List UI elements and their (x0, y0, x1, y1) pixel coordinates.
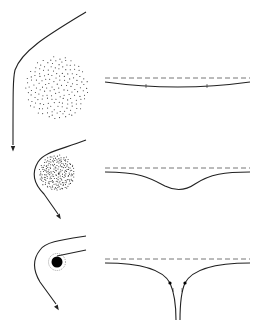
cloud-dot (60, 184, 61, 185)
cloud-dot (71, 179, 72, 180)
cloud-dot (56, 165, 57, 166)
cloud-dot (65, 170, 66, 171)
cloud-dot (60, 165, 61, 166)
cloud-dot (45, 170, 46, 171)
cloud-dot (72, 83, 73, 84)
cloud-dot (67, 73, 68, 74)
cloud-dot (63, 157, 64, 158)
cloud-dot (64, 95, 65, 96)
cloud-dot (66, 182, 67, 183)
cloud-dot (60, 111, 61, 112)
cloud-dot (49, 183, 50, 184)
cloud-dot (41, 176, 42, 177)
cloud-dot (63, 158, 64, 159)
cloud-dot (62, 182, 63, 183)
cloud-dot (31, 80, 32, 81)
cloud-dot (57, 187, 58, 188)
cloud-dot (87, 92, 88, 93)
cloud-dot (54, 109, 55, 110)
cloud-dot (76, 103, 77, 104)
cloud-dot (72, 174, 73, 175)
cloud-dot (51, 75, 52, 76)
cloud-dot (52, 63, 53, 64)
cloud-dot (56, 175, 57, 176)
cloud-dot (61, 61, 62, 62)
curved-space-line (105, 82, 250, 87)
panel-black-hole (35, 236, 250, 320)
cloud-dot (48, 163, 49, 164)
cloud-dot (37, 99, 38, 100)
cloud-dot (51, 95, 52, 96)
cloud-dot (34, 75, 35, 76)
cloud-dot (35, 102, 36, 103)
cloud-dot (80, 108, 81, 109)
cloud-dot (57, 84, 58, 85)
cloud-dot (58, 68, 59, 69)
cloud-dot (51, 99, 52, 100)
cloud-dot (46, 172, 47, 173)
cloud-dot (67, 82, 68, 83)
cloud-dot (70, 65, 71, 66)
cloud-dot (80, 99, 81, 100)
cloud-dot (62, 66, 63, 67)
cloud-dot (50, 168, 51, 169)
cloud-dot (59, 80, 60, 81)
cloud-dot (53, 165, 54, 166)
cloud-dot (45, 79, 46, 80)
cloud-dot (67, 186, 68, 187)
cloud-dot (71, 92, 72, 93)
cloud-dot (59, 64, 60, 65)
cloud-dot (46, 168, 47, 169)
cloud-dot (69, 180, 70, 181)
cloud-dot (42, 113, 43, 114)
cloud-dot (51, 66, 52, 67)
cloud-dot (52, 160, 53, 161)
cloud-dot (65, 159, 66, 160)
cloud-dot (79, 70, 80, 71)
cloud-dot (31, 94, 32, 95)
cloud-dot (55, 184, 56, 185)
cloud-dot (59, 75, 60, 76)
cloud-dot (54, 172, 55, 173)
cloud-dot (70, 98, 71, 99)
cloud-dot (62, 188, 63, 189)
cloud-dot (65, 69, 66, 70)
cloud-dot (48, 83, 49, 84)
mass-cloud (25, 56, 88, 119)
cloud-dot (69, 94, 70, 95)
cloud-dot (55, 170, 56, 171)
cloud-dot (48, 161, 49, 162)
cloud-dot (35, 92, 36, 93)
cloud-dot (44, 66, 45, 67)
cloud-dot (70, 69, 71, 70)
cloud-dot (54, 118, 55, 119)
cloud-dot (50, 159, 51, 160)
cloud-dot (50, 167, 51, 168)
cloud-dot (44, 91, 45, 92)
cloud-dot (38, 112, 39, 113)
cloud-dot (44, 179, 45, 180)
cloud-dot (59, 117, 60, 118)
cloud-dot (44, 162, 45, 163)
cloud-dot (45, 184, 46, 185)
panel-diffuse-cloud (11, 12, 250, 152)
cloud-dot (64, 80, 65, 81)
cloud-dot (79, 96, 80, 97)
cloud-dot (54, 178, 55, 179)
cloud-dot (68, 167, 69, 168)
cloud-dot (56, 178, 57, 179)
cloud-dot (59, 59, 60, 60)
cloud-dot (67, 169, 68, 170)
arrowhead-icon (11, 146, 15, 152)
cloud-dot (45, 180, 46, 181)
cloud-dot (56, 159, 57, 160)
cloud-dot (56, 181, 57, 182)
cloud-dot (66, 108, 67, 109)
cloud-dot (74, 95, 75, 96)
cloud-dot (64, 165, 65, 166)
light-ray (35, 236, 86, 304)
cloud-dot (70, 183, 71, 184)
cloud-dot (57, 168, 58, 169)
black-hole (52, 257, 63, 268)
cloud-dot (67, 90, 68, 91)
